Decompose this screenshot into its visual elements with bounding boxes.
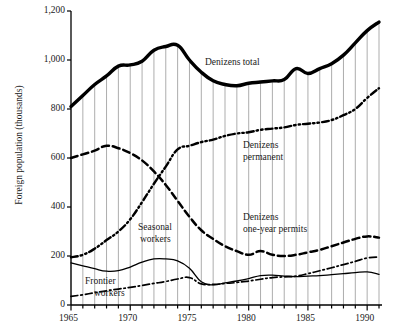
y-tick-label-0: 0 <box>60 299 65 309</box>
chart-figure: Foreign population (thousands) 020040060… <box>0 0 394 331</box>
annotation-denizens-total: Denizens total <box>205 57 260 68</box>
y-axis-label: Foreign population (thousands) <box>14 70 24 220</box>
x-tick-label-1985: 1985 <box>296 313 315 323</box>
x-tick-label-1990: 1990 <box>355 313 374 323</box>
annotation-seasonal-workers-2: workers <box>140 234 171 245</box>
y-tick-label-800: 800 <box>51 103 65 113</box>
x-tick-label-1975: 1975 <box>177 313 196 323</box>
annotation-frontier-workers-2: workers <box>94 288 125 299</box>
x-tick-label-1965: 1965 <box>59 313 78 323</box>
y-tick-label-200: 200 <box>51 250 65 260</box>
y-tick-label-1000: 1,000 <box>44 54 65 64</box>
axes <box>67 11 382 311</box>
y-tick-label-400: 400 <box>51 201 65 211</box>
annotation-seasonal-workers: Seasonal <box>138 222 172 233</box>
annotation-denizens-permanent: Denizens <box>243 140 278 151</box>
annotation-denizens-permanent-2: permanent <box>243 152 283 163</box>
y-tick-label-600: 600 <box>51 152 65 162</box>
x-tick-label-1980: 1980 <box>237 313 256 323</box>
x-tick-label-1970: 1970 <box>118 313 137 323</box>
plot-area <box>0 0 394 331</box>
annotation-denizens-one-year: Denizens <box>243 212 278 223</box>
annotation-frontier-workers: Frontier <box>85 276 116 287</box>
y-tick-label-1200: 1,200 <box>44 5 65 15</box>
annotation-denizens-one-year-2: one-year permits <box>243 224 307 235</box>
